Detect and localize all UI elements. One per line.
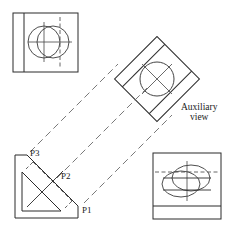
bottom-left-view: P3 P2 P1 [15, 148, 92, 218]
bottom-right-view [153, 153, 221, 219]
auxiliary-view: Auxiliary view [115, 37, 218, 122]
bottom-left-view-inner-inclined [22, 172, 61, 211]
bottom-right-view-ellipse-a [162, 171, 200, 197]
point-label-p3: P3 [30, 148, 40, 158]
top-left-view-outline [13, 13, 78, 72]
auxiliary-view-label-line1: Auxiliary [181, 102, 218, 112]
bottom-left-view-diagonal-cross [27, 171, 63, 207]
projection-line-p3 [30, 64, 118, 152]
top-left-view [13, 13, 78, 72]
projection-line-p2 [57, 88, 147, 178]
point-label-p2: P2 [61, 171, 71, 181]
bottom-left-view-outline [15, 155, 78, 218]
drawing-canvas: Auxiliary view P3 P2 P1 [0, 0, 232, 229]
bottom-left-view-hidden-line-b [26, 162, 33, 169]
bottom-left-view-hidden-line-c [65, 201, 72, 208]
projection-line-p1 [84, 115, 172, 203]
engineering-drawing-sheet: Auxiliary view P3 P2 P1 [0, 0, 232, 229]
auxiliary-view-label-line2: view [190, 112, 209, 122]
point-label-p1: P1 [82, 205, 92, 215]
